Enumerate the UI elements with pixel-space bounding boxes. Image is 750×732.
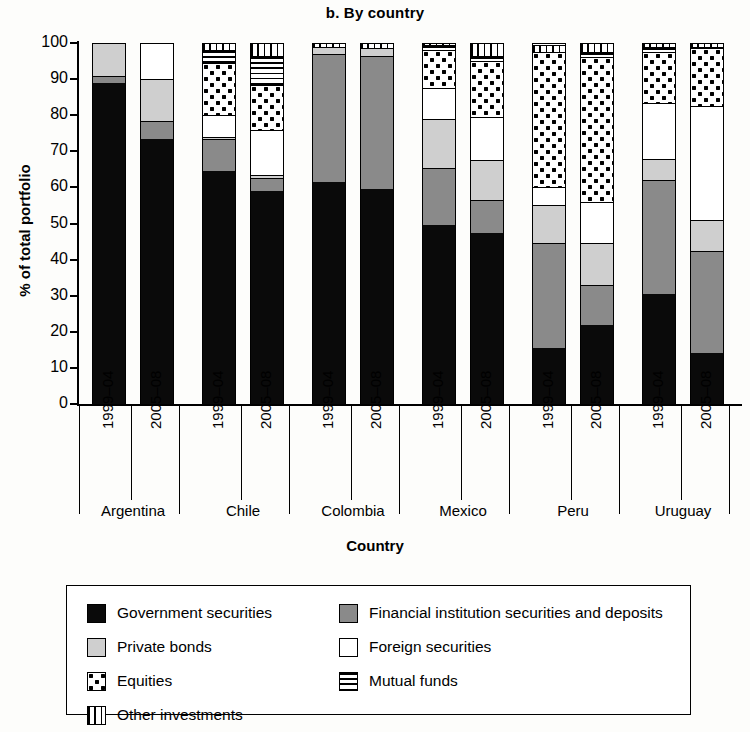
country-label-uruguay: Uruguay [628, 502, 738, 519]
bar-segment-mut [581, 52, 613, 57]
bar-segment-fin [361, 56, 393, 190]
bar-segment-priv [361, 48, 393, 55]
bar-argentina-2005-08 [140, 43, 174, 404]
period-label-peru-0: 1999–04 [539, 371, 556, 429]
period-label-chile-0: 1999–04 [209, 371, 226, 429]
bar-segment-mut [203, 50, 235, 63]
legend-swatch-priv-icon [87, 638, 106, 657]
bar-segment-priv [251, 175, 283, 179]
bar-segment-priv [581, 243, 613, 285]
bar-segment-fin [313, 54, 345, 182]
bar-segment-mut [691, 47, 723, 49]
legend-label-priv: Private bonds [117, 638, 212, 656]
bar-segment-gov [141, 139, 173, 404]
axis-separator [289, 406, 290, 514]
axis-separator [571, 406, 572, 500]
bar-segment-oth [471, 43, 503, 56]
bar-segment-mut [251, 56, 283, 85]
bar-segment-for [203, 115, 235, 137]
bar-segment-fin [251, 178, 283, 191]
legend-row: Other investments [67, 698, 690, 732]
bar-segment-mut [471, 56, 503, 61]
legend-item-gov: Government securities [87, 596, 272, 630]
country-label-colombia: Colombia [298, 502, 408, 519]
bar-segment-oth [361, 43, 393, 48]
legend-label-mut: Mutual funds [369, 672, 458, 690]
bar-segment-fin [691, 251, 723, 354]
bar-colombia-2005-08 [360, 43, 394, 404]
y-tick-label-20: 20 [8, 323, 68, 339]
chart-legend: Government securitiesFinancial instituti… [66, 585, 691, 715]
bar-segment-oth [203, 43, 235, 50]
axis-separator [509, 406, 510, 514]
axis-separator [131, 406, 132, 500]
bar-segment-priv [643, 159, 675, 181]
bar-segment-priv [533, 205, 565, 243]
period-label-colombia-1: 2005–08 [367, 371, 384, 429]
y-axis-tick-labels: 0102030405060708090100 [0, 0, 68, 732]
bar-segment-fin [581, 285, 613, 325]
y-tick-label-10: 10 [8, 359, 68, 375]
legend-label-eq: Equities [117, 672, 172, 690]
bar-segment-eq [251, 85, 283, 130]
period-label-uruguay-0: 1999–04 [649, 371, 666, 429]
x-axis-label: Country [0, 537, 750, 554]
period-label-chile-1: 2005–08 [257, 371, 274, 429]
plot-area [78, 43, 742, 404]
bar-segment-priv [471, 160, 503, 200]
axis-separator [461, 406, 462, 500]
period-label-colombia-0: 1999–04 [319, 371, 336, 429]
bar-segment-oth [581, 43, 613, 52]
legend-label-fin: Financial institution securities and dep… [369, 604, 663, 622]
bar-segment-fin [203, 139, 235, 171]
bar-segment-eq [471, 61, 503, 117]
bar-peru-2005-08 [580, 43, 614, 404]
bar-chile-1999-04 [202, 43, 236, 404]
chart-title: b. By country [0, 4, 750, 21]
legend-label-gov: Government securities [117, 604, 272, 622]
period-label-peru-1: 2005–08 [587, 371, 604, 429]
bar-segment-priv [93, 43, 125, 75]
bar-segment-for [643, 103, 675, 159]
axis-separator [681, 406, 682, 500]
legend-row: EquitiesMutual funds [67, 664, 690, 698]
legend-row: Private bondsForeign securities [67, 630, 690, 664]
legend-item-for: Foreign securities [339, 630, 491, 664]
bar-segment-priv [423, 119, 455, 168]
y-tick-label-0: 0 [8, 395, 68, 411]
period-label-mexico-1: 2005–08 [477, 371, 494, 429]
legend-swatch-for-icon [339, 638, 358, 657]
bar-segment-eq [423, 50, 455, 88]
bar-segment-for [581, 202, 613, 244]
y-tick-label-80: 80 [8, 106, 68, 122]
chart-figure: b. By country % of total portfolio 01020… [0, 0, 750, 732]
legend-swatch-oth-icon [87, 706, 106, 725]
bar-segment-oth [643, 43, 675, 47]
bar-segment-fin [93, 76, 125, 83]
legend-label-oth: Other investments [117, 706, 243, 724]
country-label-peru: Peru [518, 502, 628, 519]
y-tick-label-50: 50 [8, 215, 68, 231]
legend-swatch-gov-icon [87, 604, 106, 623]
bar-segment-mut [423, 45, 455, 50]
period-label-argentina-0: 1999–04 [99, 371, 116, 429]
legend-item-eq: Equities [87, 664, 172, 698]
bar-segment-fin [643, 180, 675, 294]
axis-separator [79, 406, 80, 514]
bar-segment-priv [203, 137, 235, 139]
period-label-uruguay-1: 2005–08 [697, 371, 714, 429]
country-label-chile: Chile [188, 502, 298, 519]
y-tick-label-100: 100 [8, 34, 68, 50]
bar-segment-gov [93, 83, 125, 404]
legend-label-for: Foreign securities [369, 638, 491, 656]
bar-segment-for [423, 88, 455, 119]
bar-segment-oth [251, 43, 283, 56]
bar-segment-oth [533, 45, 565, 52]
period-label-mexico-0: 1999–04 [429, 371, 446, 429]
bar-segment-fin [533, 243, 565, 348]
bar-segment-for [471, 117, 503, 160]
bar-segment-eq [581, 57, 613, 201]
bar-argentina-1999-04 [92, 43, 126, 404]
axis-separator [241, 406, 242, 500]
legend-item-fin: Financial institution securities and dep… [339, 596, 663, 630]
